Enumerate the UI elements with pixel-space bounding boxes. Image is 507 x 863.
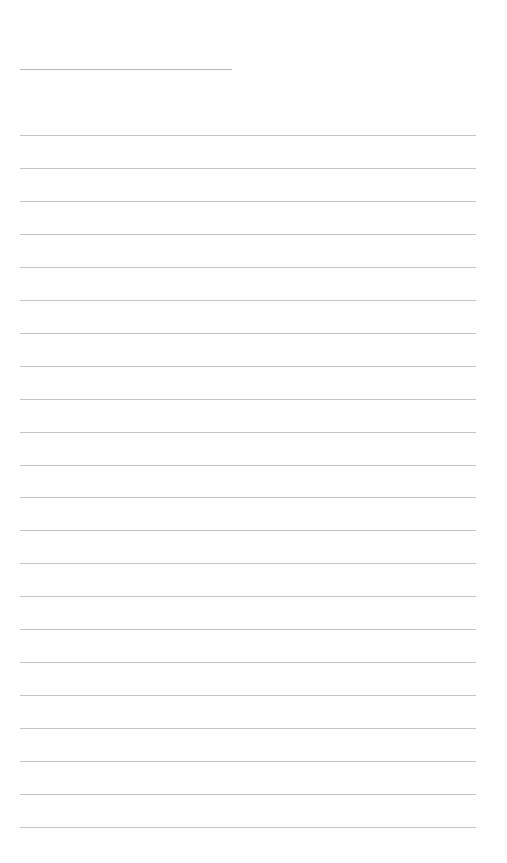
ruled-line bbox=[20, 333, 476, 334]
ruled-line bbox=[20, 300, 476, 301]
ruled-line bbox=[20, 596, 476, 597]
ruled-line bbox=[20, 662, 476, 663]
ruled-line bbox=[20, 530, 476, 531]
ruled-line bbox=[20, 201, 476, 202]
ruled-line bbox=[20, 366, 476, 367]
ruled-line bbox=[20, 399, 476, 400]
ruled-line bbox=[20, 497, 476, 498]
ruled-line bbox=[20, 761, 476, 762]
ruled-line bbox=[20, 432, 476, 433]
ruled-line bbox=[20, 563, 476, 564]
ruled-line bbox=[20, 168, 476, 169]
ruled-line bbox=[20, 728, 476, 729]
ruled-line bbox=[20, 695, 476, 696]
lined-paper-page bbox=[0, 0, 507, 863]
ruled-line bbox=[20, 629, 476, 630]
ruled-line bbox=[20, 135, 476, 136]
ruled-line bbox=[20, 827, 476, 828]
ruled-line bbox=[20, 465, 476, 466]
ruled-line bbox=[20, 267, 476, 268]
title-line bbox=[20, 69, 232, 70]
ruled-line bbox=[20, 794, 476, 795]
ruled-line bbox=[20, 234, 476, 235]
